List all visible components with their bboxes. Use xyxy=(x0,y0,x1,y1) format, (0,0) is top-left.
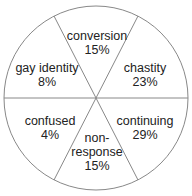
slice-percent: 29% xyxy=(117,128,174,142)
slice-percent: 15% xyxy=(67,43,127,57)
slice-name-2: response xyxy=(71,145,122,159)
slice-label-chastity: chastity 23% xyxy=(124,61,166,89)
slice-label-non-response: non- response 15% xyxy=(71,131,122,173)
slice-name: confused xyxy=(25,114,76,128)
slice-percent: 23% xyxy=(124,75,166,89)
slice-name: gay identity xyxy=(15,61,78,75)
slice-name: continuing xyxy=(117,114,174,128)
slice-percent: 4% xyxy=(25,128,76,142)
slice-name: conversion xyxy=(67,29,127,43)
slice-name-1: non- xyxy=(71,131,122,145)
slice-percent: 8% xyxy=(15,75,78,89)
slice-label-conversion: conversion 15% xyxy=(67,29,127,57)
slice-label-gay-identity: gay identity 8% xyxy=(15,61,78,89)
slice-label-confused: confused 4% xyxy=(25,114,76,142)
slice-label-continuing: continuing 29% xyxy=(117,114,174,142)
slice-percent: 15% xyxy=(71,159,122,173)
slice-name: chastity xyxy=(124,61,166,75)
